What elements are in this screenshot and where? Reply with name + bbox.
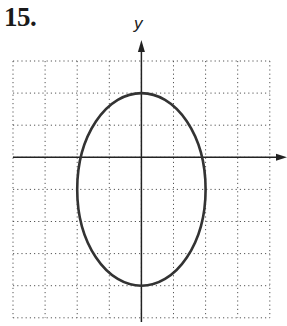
y-axis-arrow-icon [138,40,145,52]
y-axis [138,40,145,322]
x-axis-arrow-icon [276,154,287,161]
x-axis [13,154,287,161]
ellipse-graph [0,0,287,326]
